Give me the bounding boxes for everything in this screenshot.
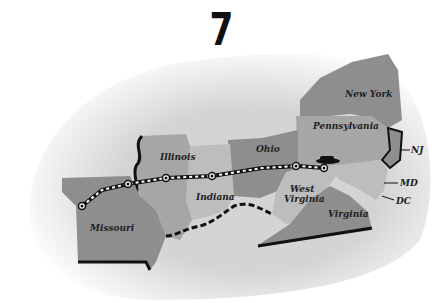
- label-pennsylvania: Pennsylvania: [312, 121, 379, 131]
- label-nj: NJ: [410, 145, 424, 155]
- route-map: Illinois Indiana Missouri Ohio West Virg…: [0, 0, 443, 303]
- label-md: MD: [399, 178, 418, 188]
- label-new-york: New York: [344, 89, 392, 99]
- label-virginia: Virginia: [328, 209, 369, 219]
- label-west-virginia-line2: Virginia: [284, 194, 325, 204]
- label-west-virginia-line1: West: [290, 184, 315, 194]
- label-illinois: Illinois: [159, 152, 196, 162]
- label-missouri: Missouri: [89, 223, 135, 233]
- label-ohio: Ohio: [256, 144, 280, 154]
- label-dc: DC: [395, 196, 412, 206]
- label-indiana: Indiana: [195, 192, 235, 202]
